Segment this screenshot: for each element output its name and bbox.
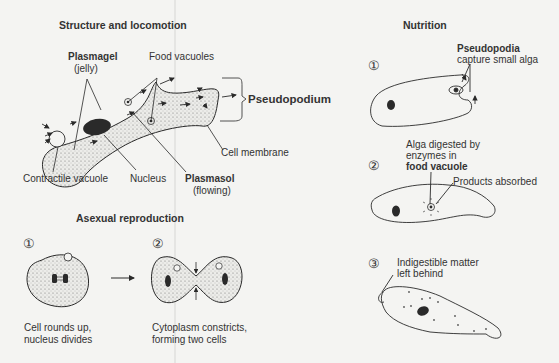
structure-title: Structure and locomotion [59, 19, 187, 31]
pseudopodium-label: Pseudopodium [248, 94, 331, 105]
residue-dots [403, 291, 487, 332]
indigestible-label-line2: left behind [397, 268, 443, 279]
capture-alga-label: capture small alga [457, 54, 538, 65]
nutrition-step-1-cell [371, 64, 475, 126]
reproduction-step-1-number: ① [23, 236, 35, 251]
reproduction-step-2-number: ② [152, 236, 164, 251]
plasmagel-sublabel: (jelly) [74, 63, 98, 74]
nutrition-title: Nutrition [403, 19, 447, 31]
reproduction-step-1-caption-line1: Cell rounds up, [24, 322, 91, 333]
reproduction-step-2-caption-line2: forming two cells [152, 334, 226, 345]
nucleus-label: Nucleus [130, 173, 166, 184]
nutrition-step-2-number: ② [368, 158, 380, 173]
cell-membrane-label: Cell membrane [221, 147, 289, 158]
food-vacuole-label: food vacuole [406, 161, 468, 172]
plasmagel-label: Plasmagel [68, 51, 117, 62]
reproduction-title: Asexual reproduction [76, 212, 184, 224]
reproduction-step-2-caption-line1: Cytoplasm constricts, [152, 322, 247, 333]
indigestible-label-line1: Indigestible matter [397, 257, 479, 268]
contractile-vacuole-label: Contractile vacuole [23, 173, 108, 184]
nutrition-step-3-number: ③ [368, 256, 380, 271]
pseudopodia-label: Pseudopodia [457, 43, 520, 54]
nutrition-step-1-number: ① [368, 58, 380, 73]
products-absorbed-label: Products absorbed [453, 176, 537, 187]
plasmasol-sublabel: (flowing) [193, 185, 231, 196]
amoeba-structure-cell [42, 78, 236, 187]
reproduction-step-1-caption-line2: nucleus divides [24, 334, 92, 345]
plasmasol-label: Plasmasol [185, 173, 234, 184]
alga-digested-label-line1: Alga digested by [406, 139, 480, 150]
alga-digested-label-line2: enzymes in [406, 150, 457, 161]
reproduction-step-2-cell [151, 257, 242, 303]
nucleus-shape [387, 100, 395, 110]
nutrition-step-3-cell [379, 275, 501, 338]
food-vacuoles-label: Food vacuoles [149, 51, 214, 62]
reproduction-step-1-cell [27, 253, 89, 307]
